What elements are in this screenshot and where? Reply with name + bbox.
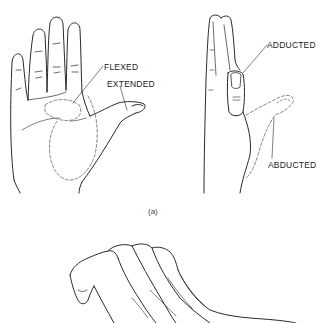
caption-a: (a) [148,207,158,216]
label-extended: EXTENDED [107,79,155,89]
label-adducted: ADDUCTED [267,40,316,50]
palm-view-hand [11,17,145,193]
label-abducted: ABDUCTED [268,160,316,170]
flexed-fingers-hand [70,244,296,323]
label-flexed: FLEXED [104,62,138,72]
